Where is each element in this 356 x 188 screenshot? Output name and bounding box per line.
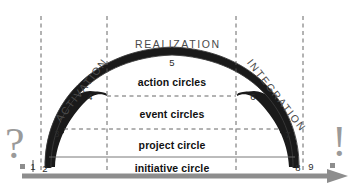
node-label-5: 5 (169, 57, 174, 68)
node-label-7: 7 (285, 129, 290, 140)
band-label-action-circles: action circles (138, 76, 207, 88)
node-label-4: 4 (87, 91, 92, 102)
band-label-initiative-circle: initiative circle (135, 162, 210, 174)
phase-label-realization: REALIZATION (135, 38, 221, 50)
axis-arrowhead (327, 169, 348, 183)
exclamation-mark-glyph: ! (332, 120, 347, 164)
band-label-project-circle: project circle (139, 139, 206, 151)
node-label-2: 2 (42, 163, 47, 174)
question-mark-glyph: ? (5, 122, 25, 166)
diagram-root: ACTIVATION REALIZATION INTEGRATION actio… (0, 0, 356, 188)
band-label-event-circles: event circles (140, 108, 205, 120)
node-label-8: 8 (295, 162, 300, 173)
node-label-1: 1 (30, 161, 35, 172)
node-label-3: 3 (54, 128, 59, 139)
diagram-canvas (0, 0, 356, 188)
node-label-6: 6 (250, 91, 255, 102)
node-label-9: 9 (308, 161, 313, 172)
